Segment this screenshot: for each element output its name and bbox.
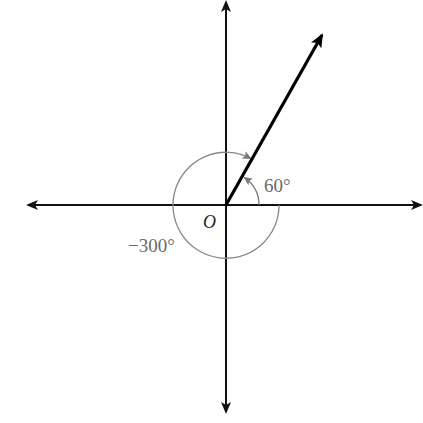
origin-label: O bbox=[203, 212, 216, 232]
angle-diagram: 60° −300° O bbox=[0, 0, 423, 423]
positive-angle-arc bbox=[245, 178, 259, 205]
angle-neg300-label: −300° bbox=[128, 235, 175, 256]
angle-60-label: 60° bbox=[264, 175, 291, 196]
